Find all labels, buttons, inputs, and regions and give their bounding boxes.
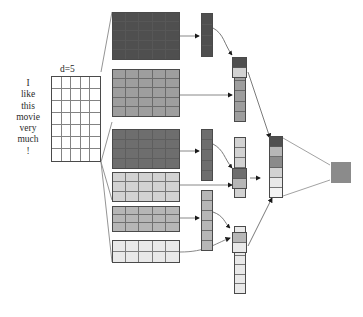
matrix-cell bbox=[81, 89, 91, 101]
matrix-cell bbox=[113, 13, 126, 22]
matrix-cell bbox=[166, 159, 179, 169]
matrix-cell bbox=[139, 13, 152, 22]
matrix-cell bbox=[113, 223, 126, 231]
vector-cell bbox=[202, 171, 212, 180]
matrix-cell bbox=[153, 130, 166, 140]
matrix-cell bbox=[166, 130, 179, 140]
conv-feature-map-5 bbox=[112, 206, 180, 232]
matrix-cell bbox=[126, 88, 139, 97]
matrix-cell bbox=[52, 77, 62, 89]
vector-cell bbox=[235, 138, 245, 148]
vector-cell bbox=[202, 241, 212, 250]
matrix-cell bbox=[166, 79, 179, 88]
matrix-cell bbox=[126, 241, 139, 252]
matrix-cell bbox=[139, 241, 152, 252]
dimension-label: d=5 bbox=[60, 64, 75, 74]
matrix-cell bbox=[52, 125, 62, 137]
vector-cell bbox=[235, 81, 245, 91]
matrix-cell bbox=[153, 31, 166, 40]
matrix-cell bbox=[113, 107, 126, 116]
matrix-cell bbox=[62, 125, 72, 137]
matrix-cell bbox=[126, 79, 139, 88]
vector-cell bbox=[202, 46, 212, 56]
vector-cell bbox=[233, 243, 246, 252]
vector-cell bbox=[202, 36, 212, 47]
token-3: movie bbox=[8, 112, 48, 123]
matrix-cell bbox=[113, 215, 126, 223]
input-embedding-matrix bbox=[51, 76, 101, 162]
matrix-cell bbox=[90, 113, 100, 125]
vector-cell bbox=[202, 130, 212, 140]
matrix-cell bbox=[126, 159, 139, 169]
matrix-cell bbox=[113, 207, 126, 215]
vector-cell bbox=[235, 91, 245, 101]
matrix-cell bbox=[153, 207, 166, 215]
vector-cell bbox=[202, 161, 212, 171]
vector-cell bbox=[270, 137, 282, 147]
matrix-cell bbox=[166, 207, 179, 215]
matrix-cell bbox=[126, 107, 139, 116]
matrix-cell bbox=[113, 50, 126, 59]
vector-cell bbox=[202, 25, 212, 36]
matrix-cell bbox=[113, 140, 126, 150]
matrix-cell bbox=[81, 77, 91, 89]
matrix-cell bbox=[153, 70, 166, 79]
matrix-cell bbox=[62, 77, 72, 89]
vector-cell bbox=[202, 211, 212, 221]
matrix-cell bbox=[90, 101, 100, 113]
matrix-cell bbox=[113, 41, 126, 50]
vector-cell bbox=[233, 179, 246, 188]
matrix-cell bbox=[139, 215, 152, 223]
matrix-cell bbox=[153, 88, 166, 97]
matrix-cell bbox=[126, 252, 139, 263]
matrix-cell bbox=[139, 70, 152, 79]
matrix-cell bbox=[81, 113, 91, 125]
matrix-cell bbox=[62, 113, 72, 125]
matrix-cell bbox=[113, 88, 126, 97]
token-6: ! bbox=[8, 146, 48, 157]
matrix-cell bbox=[126, 215, 139, 223]
matrix-cell bbox=[62, 89, 72, 101]
matrix-cell bbox=[113, 70, 126, 79]
matrix-cell bbox=[139, 88, 152, 97]
vector-cell bbox=[270, 157, 282, 167]
vector-cell bbox=[202, 221, 212, 231]
matrix-cell bbox=[113, 159, 126, 169]
vector-cell bbox=[270, 168, 282, 178]
matrix-cell bbox=[139, 149, 152, 159]
matrix-cell bbox=[153, 22, 166, 31]
matrix-cell bbox=[153, 241, 166, 252]
vector-cell bbox=[235, 148, 245, 158]
matrix-cell bbox=[126, 41, 139, 50]
vector-cell bbox=[233, 169, 246, 179]
matrix-cell bbox=[153, 13, 166, 22]
vector-cell bbox=[270, 147, 282, 157]
matrix-cell bbox=[126, 149, 139, 159]
matrix-cell bbox=[126, 207, 139, 215]
matrix-cell bbox=[126, 70, 139, 79]
matrix-cell bbox=[166, 50, 179, 59]
matrix-cell bbox=[126, 130, 139, 140]
matrix-cell bbox=[166, 182, 179, 191]
matrix-cell bbox=[71, 101, 81, 113]
matrix-cell bbox=[153, 192, 166, 201]
vector-cell bbox=[235, 265, 245, 275]
matrix-cell bbox=[166, 13, 179, 22]
matrix-cell bbox=[153, 159, 166, 169]
vector-cell bbox=[235, 275, 245, 285]
matrix-cell bbox=[113, 252, 126, 263]
matrix-cell bbox=[113, 79, 126, 88]
vector-cell bbox=[235, 284, 245, 293]
matrix-cell bbox=[166, 70, 179, 79]
matrix-cell bbox=[153, 140, 166, 150]
merge-cell-1 bbox=[232, 57, 247, 78]
matrix-cell bbox=[90, 137, 100, 149]
matrix-cell bbox=[71, 149, 81, 161]
matrix-cell bbox=[153, 173, 166, 182]
matrix-cell bbox=[153, 98, 166, 107]
matrix-cell bbox=[81, 149, 91, 161]
matrix-cell bbox=[126, 192, 139, 201]
matrix-cell bbox=[139, 192, 152, 201]
matrix-cell bbox=[126, 13, 139, 22]
matrix-cell bbox=[153, 41, 166, 50]
